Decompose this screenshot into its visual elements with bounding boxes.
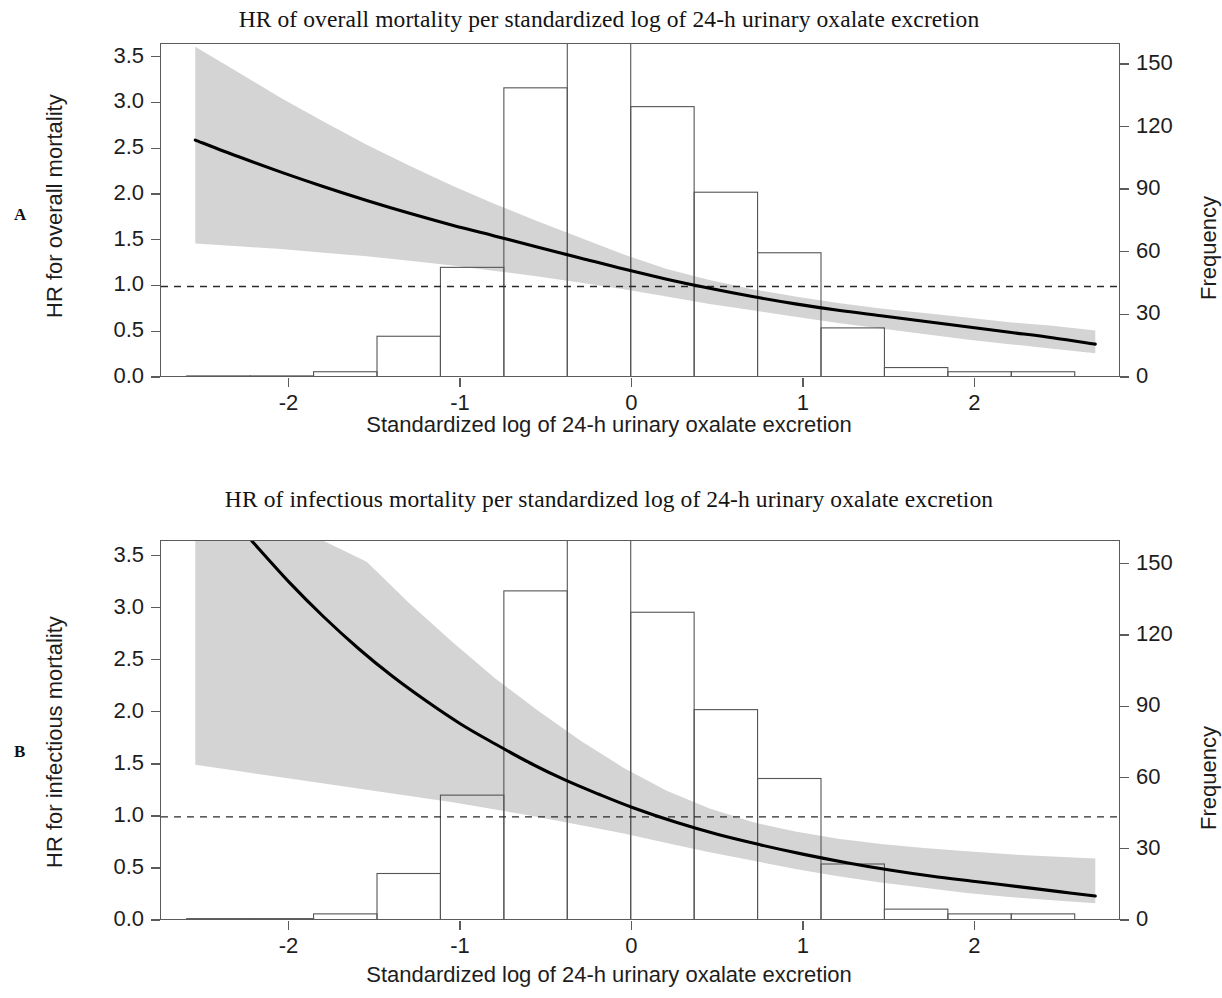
y-axis-tick-right bbox=[1120, 563, 1129, 564]
histogram-bar bbox=[314, 372, 377, 377]
y-axis-tick-label-right: 90 bbox=[1136, 692, 1160, 718]
y-axis-tick-label-left: 1.5 bbox=[60, 750, 144, 776]
y-axis-tick-right bbox=[1120, 777, 1129, 778]
y-axis-tick-label-right: 30 bbox=[1136, 835, 1160, 861]
panel-a-title: HR of overall mortality per standardized… bbox=[0, 6, 1218, 33]
y-axis-tick-label-right: 30 bbox=[1136, 300, 1160, 326]
x-axis-tick bbox=[802, 378, 803, 387]
y-axis-tick-right bbox=[1120, 848, 1129, 849]
y-axis-tick-left bbox=[151, 867, 160, 868]
histogram-bar bbox=[250, 376, 313, 377]
y-axis-tick-right bbox=[1120, 706, 1129, 707]
histogram-bar bbox=[377, 336, 440, 377]
y-axis-tick-label-left: 2.0 bbox=[60, 180, 144, 206]
y-axis-tick-left bbox=[151, 607, 160, 608]
x-axis-tick bbox=[974, 921, 975, 930]
panel-a: A HR of overall mortality per standardiz… bbox=[0, 0, 1218, 470]
histogram-bar bbox=[884, 909, 947, 920]
y-axis-tick-label-right: 120 bbox=[1136, 113, 1173, 139]
y-axis-tick-right bbox=[1120, 188, 1129, 189]
panel-b-chart-canvas bbox=[161, 541, 1120, 920]
y-axis-tick-label-left: 3.5 bbox=[60, 542, 144, 568]
histogram-bar bbox=[631, 612, 694, 920]
confidence-band bbox=[195, 541, 1095, 903]
y-axis-tick-label-left: 3.0 bbox=[60, 88, 144, 114]
x-axis-tick-label: -1 bbox=[430, 933, 490, 959]
y-axis-tick-left bbox=[151, 711, 160, 712]
x-axis-tick-label: -1 bbox=[430, 390, 490, 416]
x-axis-tick bbox=[802, 921, 803, 930]
x-axis-tick-label: -2 bbox=[259, 390, 319, 416]
y-axis-tick-label-right: 60 bbox=[1136, 238, 1160, 264]
panel-b-plot-area bbox=[160, 540, 1120, 920]
y-axis-tick-label-right: 60 bbox=[1136, 764, 1160, 790]
histogram-bar bbox=[631, 107, 694, 377]
x-axis-tick bbox=[288, 378, 289, 387]
panel-a-plot-area bbox=[160, 43, 1120, 377]
panel-b: B HR of infectious mortality per standar… bbox=[0, 470, 1218, 998]
y-axis-tick-left bbox=[151, 239, 160, 240]
y-axis-tick-right bbox=[1120, 314, 1129, 315]
histogram-bar bbox=[948, 372, 1011, 377]
y-axis-tick-label-right: 150 bbox=[1136, 50, 1173, 76]
histogram-bar bbox=[884, 368, 947, 377]
y-axis-tick-label-left: 2.5 bbox=[60, 134, 144, 160]
histogram-bar bbox=[187, 919, 250, 920]
y-axis-tick-left bbox=[151, 815, 160, 816]
histogram-bar bbox=[440, 795, 503, 920]
y-axis-tick-label-left: 2.5 bbox=[60, 646, 144, 672]
y-axis-tick-left bbox=[151, 919, 160, 920]
y-axis-tick-label-right: 90 bbox=[1136, 175, 1160, 201]
x-axis-tick bbox=[631, 378, 632, 387]
y-axis-tick-label-right: 0 bbox=[1136, 906, 1148, 932]
y-axis-tick-label-left: 3.5 bbox=[60, 43, 144, 69]
x-axis-tick-label: 0 bbox=[601, 390, 661, 416]
histogram-bar bbox=[948, 914, 1011, 920]
histogram-bar bbox=[1011, 372, 1074, 377]
y-axis-tick-left bbox=[151, 659, 160, 660]
histogram-bar bbox=[314, 914, 377, 920]
y-axis-tick-label-right: 150 bbox=[1136, 550, 1173, 576]
y-axis-tick-left bbox=[151, 56, 160, 57]
x-axis-tick-label: 0 bbox=[601, 933, 661, 959]
panel-letter-a: A bbox=[14, 205, 26, 225]
panel-a-chart-canvas bbox=[161, 44, 1120, 377]
x-axis-tick-label: 1 bbox=[773, 933, 833, 959]
x-axis-tick-label: 1 bbox=[773, 390, 833, 416]
y-axis-tick-left bbox=[151, 193, 160, 194]
panel-letter-b: B bbox=[14, 742, 25, 762]
y-axis-tick-left bbox=[151, 148, 160, 149]
y-axis-tick-label-left: 3.0 bbox=[60, 594, 144, 620]
y-axis-tick-left bbox=[151, 376, 160, 377]
y-axis-tick-label-left: 0.0 bbox=[60, 363, 144, 389]
panel-b-y-axis-right-label: Frequency bbox=[1196, 726, 1222, 830]
y-axis-tick-label-left: 0.0 bbox=[60, 906, 144, 932]
x-axis-tick bbox=[288, 921, 289, 930]
panel-b-x-axis-label: Standardized log of 24-h urinary oxalate… bbox=[0, 962, 1218, 988]
histogram-bar bbox=[567, 541, 630, 920]
y-axis-tick-label-left: 1.0 bbox=[60, 271, 144, 297]
x-axis-tick bbox=[459, 378, 460, 387]
y-axis-tick-label-left: 2.0 bbox=[60, 698, 144, 724]
y-axis-tick-left bbox=[151, 555, 160, 556]
y-axis-tick-label-left: 1.0 bbox=[60, 802, 144, 828]
y-axis-tick-right bbox=[1120, 126, 1129, 127]
histogram-bar bbox=[250, 919, 313, 920]
x-axis-tick-label: 2 bbox=[944, 390, 1004, 416]
x-axis-tick bbox=[459, 921, 460, 930]
panel-b-title: HR of infectious mortality per standardi… bbox=[0, 486, 1218, 513]
y-axis-tick-left bbox=[151, 763, 160, 764]
y-axis-tick-label-left: 1.5 bbox=[60, 226, 144, 252]
confidence-band bbox=[195, 47, 1095, 354]
histogram-bar bbox=[187, 376, 250, 377]
y-axis-tick-right bbox=[1120, 251, 1129, 252]
y-axis-tick-label-right: 0 bbox=[1136, 363, 1148, 389]
histogram-bar bbox=[440, 267, 503, 377]
x-axis-tick-label: 2 bbox=[944, 933, 1004, 959]
histogram-bar bbox=[1011, 914, 1074, 920]
y-axis-tick-label-right: 120 bbox=[1136, 621, 1173, 647]
y-axis-tick-right bbox=[1120, 634, 1129, 635]
y-axis-tick-right bbox=[1120, 919, 1129, 920]
y-axis-tick-left bbox=[151, 102, 160, 103]
y-axis-tick-label-left: 0.5 bbox=[60, 317, 144, 343]
